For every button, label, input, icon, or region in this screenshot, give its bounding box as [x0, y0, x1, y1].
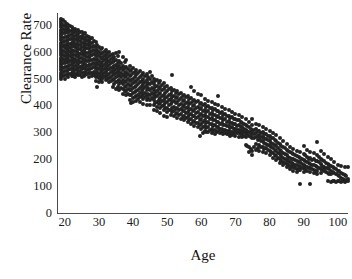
data-point	[116, 54, 120, 58]
x-axis-line	[57, 213, 348, 214]
data-point	[124, 58, 128, 62]
x-tick-label: 90	[297, 216, 310, 229]
data-point	[170, 73, 174, 77]
data-point	[250, 117, 254, 121]
x-tick-label: 80	[263, 216, 276, 229]
x-tick-label: 70	[229, 216, 242, 229]
y-tick-label: 0	[0, 207, 52, 220]
x-tick-label: 60	[195, 216, 208, 229]
x-tick-label: 50	[161, 216, 174, 229]
x-axis-title: Age	[58, 247, 348, 264]
x-tick-label: 100	[328, 216, 347, 229]
data-point	[250, 153, 254, 157]
x-tick-label: 20	[59, 216, 72, 229]
data-point	[117, 50, 121, 54]
y-axis-title: Clearance Rate	[18, 0, 35, 139]
scatter-plot-figure: 0100200300400500600700 20304050607080901…	[0, 0, 352, 279]
y-tick-label: 200	[0, 153, 52, 166]
x-tick-label: 40	[127, 216, 140, 229]
plot-data-area	[58, 14, 348, 213]
data-point	[315, 140, 319, 144]
x-tick-label: 30	[93, 216, 106, 229]
data-point	[346, 165, 350, 169]
y-tick-label: 100	[0, 180, 52, 193]
data-point	[308, 182, 312, 186]
data-point	[298, 182, 302, 186]
data-point	[216, 94, 220, 98]
data-point	[95, 85, 99, 89]
data-point	[346, 179, 350, 183]
data-point	[189, 85, 193, 89]
